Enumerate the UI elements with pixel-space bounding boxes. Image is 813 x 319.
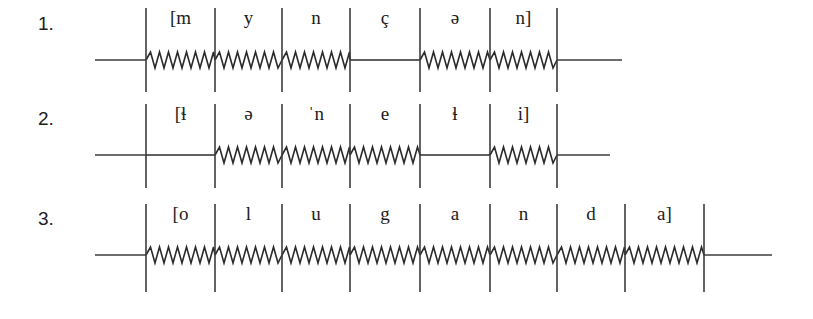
segment-label: g (380, 203, 390, 224)
voiced-zigzag-segment (146, 247, 215, 263)
segment-label: ç (381, 7, 389, 28)
segment-label: ɬ (452, 103, 457, 124)
segment-label: ə (451, 7, 459, 28)
voiced-zigzag-segment (215, 52, 282, 68)
segment-label: [m (170, 7, 191, 28)
segment-label: e (381, 103, 389, 124)
waveform-row-1: 1.[mynçən] (38, 7, 622, 92)
voiced-zigzag-segment (282, 147, 350, 163)
voiced-zigzag-segment (420, 52, 490, 68)
segment-label: u (311, 203, 321, 224)
segment-label: i] (518, 103, 530, 124)
segment-label: n] (516, 7, 532, 28)
segment-label: a (451, 203, 460, 224)
voiced-zigzag-segment (490, 52, 557, 68)
segment-label: ˈn (308, 103, 324, 124)
voiced-zigzag-segment (215, 247, 282, 263)
voiced-zigzag-segment (282, 247, 350, 263)
segment-label: [o (173, 203, 189, 224)
segment-label: ə (244, 103, 252, 124)
segment-label: n (311, 7, 321, 28)
voicing-waveform-figure: 1.[mynçən]2.[ɬəˈneɬi]3.[oluganda] (0, 0, 813, 319)
voiced-zigzag-segment (420, 247, 490, 263)
voiced-zigzag-segment (490, 147, 557, 163)
row-number-label: 1. (38, 13, 54, 34)
segment-label: n (519, 203, 529, 224)
voiced-zigzag-segment (146, 52, 215, 68)
voiced-zigzag-segment (350, 247, 420, 263)
segment-label: l (246, 203, 251, 224)
row-number-label: 2. (38, 108, 54, 129)
voiced-zigzag-segment (215, 147, 282, 163)
segment-label: y (244, 7, 254, 28)
voiced-zigzag-segment (557, 247, 625, 263)
waveform-row-3: 3.[oluganda] (38, 203, 772, 292)
segment-label: d (586, 203, 596, 224)
segment-label: [ɬ (175, 103, 187, 124)
row-number-label: 3. (38, 208, 54, 229)
segment-label: a] (657, 203, 672, 224)
voiced-zigzag-segment (282, 52, 350, 68)
voiced-zigzag-segment (350, 147, 420, 163)
voiced-zigzag-segment (490, 247, 557, 263)
voiced-zigzag-segment (625, 247, 704, 263)
waveform-row-2: 2.[ɬəˈneɬi] (38, 103, 610, 188)
